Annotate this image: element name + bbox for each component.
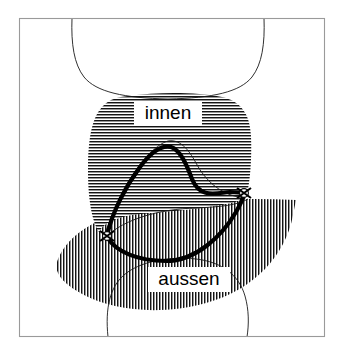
- label-aussen: aussen: [148, 267, 230, 292]
- label-innen-text: innen: [145, 102, 192, 123]
- figure-container: innen aussen: [0, 0, 345, 356]
- anatomical-diagram: innen aussen: [0, 0, 345, 356]
- marker-left: [100, 231, 114, 241]
- label-aussen-text: aussen: [158, 268, 219, 289]
- label-innen: innen: [134, 101, 202, 126]
- marker-right: [237, 188, 251, 198]
